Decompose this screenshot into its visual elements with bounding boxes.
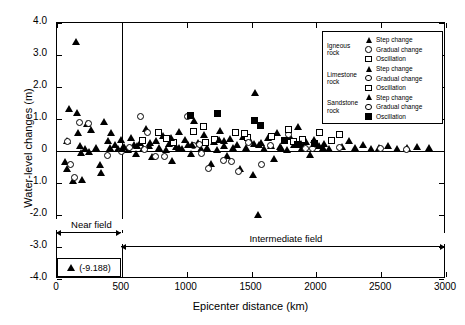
legend-item: Gradual change xyxy=(364,73,440,83)
data-point xyxy=(258,161,265,168)
y-tick xyxy=(439,215,444,216)
y-tick-label: -4.0 xyxy=(0,271,47,282)
data-point xyxy=(144,129,151,136)
data-point xyxy=(316,129,323,136)
data-point xyxy=(403,146,410,153)
legend-item-label: Gradual change xyxy=(376,46,422,53)
data-point xyxy=(200,131,208,138)
x-tick xyxy=(446,272,447,277)
legend-item: Step change xyxy=(364,64,440,74)
filled-triangle-icon xyxy=(364,94,373,100)
data-point xyxy=(187,150,195,157)
data-point xyxy=(257,122,264,129)
data-point xyxy=(71,174,78,181)
legend-rows: Step changeGradual changeOscillation xyxy=(364,35,440,64)
data-point xyxy=(73,109,81,116)
open-square-icon xyxy=(364,56,373,63)
data-point xyxy=(413,143,421,150)
y-axis-title: Water-level changes (m) xyxy=(22,38,34,258)
data-point xyxy=(117,136,125,143)
y-tick xyxy=(57,55,62,56)
data-point xyxy=(425,144,433,151)
x-tick xyxy=(122,272,123,277)
data-point xyxy=(328,137,335,144)
legend-group-label: Sandstone rock xyxy=(327,99,364,114)
chart-legend: Igneous rockStep changeGradual changeOsc… xyxy=(322,31,443,124)
data-point xyxy=(175,128,183,135)
data-point xyxy=(202,139,209,146)
data-point xyxy=(137,113,144,120)
legend-item: Oscillation xyxy=(364,54,440,64)
data-point xyxy=(188,141,196,148)
filled-square-icon xyxy=(364,113,373,120)
y-tick xyxy=(57,87,62,88)
data-point xyxy=(232,129,239,136)
y-tick xyxy=(57,215,62,216)
data-point xyxy=(245,139,252,146)
x-tick-label: 2500 xyxy=(350,281,410,292)
data-point xyxy=(72,38,80,45)
y-tick xyxy=(57,247,62,248)
y-tick xyxy=(57,119,62,120)
data-point xyxy=(215,136,223,143)
data-point xyxy=(198,150,205,157)
data-point xyxy=(104,152,111,159)
data-point xyxy=(152,153,159,160)
data-point xyxy=(126,144,133,151)
x-tick xyxy=(316,272,317,277)
data-point xyxy=(294,141,301,148)
x-tick-label: 1000 xyxy=(156,281,216,292)
data-point xyxy=(270,155,278,162)
data-point xyxy=(146,139,154,146)
data-point xyxy=(281,137,288,144)
x-tick-label: 1500 xyxy=(221,281,281,292)
legend-item: Oscillation xyxy=(364,112,440,122)
legend-item: Oscillation xyxy=(364,83,440,93)
x-tick-label: 2000 xyxy=(285,281,345,292)
data-point xyxy=(175,144,183,151)
legend-item-label: Oscillation xyxy=(376,84,406,91)
arrow-left-icon xyxy=(56,230,61,236)
y-tick xyxy=(439,279,444,280)
filled-triangle-icon xyxy=(364,66,373,72)
data-point xyxy=(216,127,224,134)
x-tick xyxy=(381,23,382,28)
data-point xyxy=(268,133,275,140)
y-tick xyxy=(57,23,62,24)
data-point xyxy=(127,134,135,141)
data-point xyxy=(384,142,392,149)
data-point xyxy=(311,140,318,147)
x-tick xyxy=(187,272,188,277)
data-point xyxy=(190,128,197,135)
data-point xyxy=(205,165,212,172)
x-tick-label: 3000 xyxy=(415,281,465,292)
data-point xyxy=(319,144,327,151)
chart-figure: 050010001500200025003000-4.0-3.0-2.0-1.0… xyxy=(0,0,465,325)
open-square-icon xyxy=(364,85,373,92)
legend-group-1: Igneous rockStep changeGradual changeOsc… xyxy=(327,35,440,64)
arrow-right-icon xyxy=(440,244,445,250)
data-point xyxy=(200,123,207,130)
data-point xyxy=(163,135,170,142)
y-tick xyxy=(439,151,444,152)
data-point xyxy=(241,130,248,137)
x-tick xyxy=(316,23,317,28)
y-tick xyxy=(57,183,62,184)
legend-group-2: Limestone rockStep changeGradual changeO… xyxy=(327,64,440,93)
legend-group-3: Sandstone rockStep changeGradual changeO… xyxy=(327,93,440,122)
x-tick-label: 0 xyxy=(26,281,86,292)
outlier-value-label: (-9.188) xyxy=(79,263,111,273)
legend-item-label: Gradual change xyxy=(376,75,422,82)
y-tick xyxy=(57,279,62,280)
legend-item-label: Oscillation xyxy=(376,55,406,62)
data-point xyxy=(285,126,292,133)
near-field-arrow xyxy=(56,232,121,233)
data-point xyxy=(336,144,343,151)
legend-rows: Step changeGradual changeOscillation xyxy=(364,64,440,93)
y-tick xyxy=(57,151,62,152)
data-point xyxy=(87,126,95,133)
legend-item-label: Gradual change xyxy=(376,103,422,110)
data-point xyxy=(74,129,82,136)
legend-item-label: Step change xyxy=(376,94,413,101)
data-point xyxy=(100,118,108,125)
